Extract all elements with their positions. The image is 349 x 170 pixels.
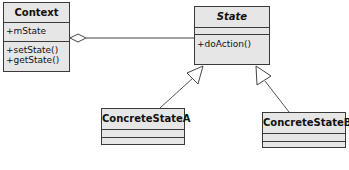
- class-title: ConcreteStateA: [102, 109, 184, 130]
- class-title: ConcreteStateB: [263, 113, 345, 134]
- attributes-section: [263, 134, 345, 142]
- class-concrete-state-b[interactable]: ConcreteStateB: [262, 112, 346, 148]
- method: +doAction(): [197, 39, 269, 49]
- class-title: State: [195, 7, 269, 28]
- attributes-section: [195, 28, 269, 35]
- generalization-b-connector: [256, 66, 289, 112]
- method: +getState(): [6, 55, 69, 65]
- attributes-section: [102, 130, 184, 138]
- methods-section: +doAction(): [195, 35, 269, 49]
- methods-section: [102, 138, 184, 145]
- attribute: +mState: [6, 26, 69, 36]
- class-state[interactable]: State +doAction(): [194, 6, 270, 65]
- method: +setState(): [6, 45, 69, 55]
- class-context[interactable]: Context +mState +setState() +getState(): [3, 2, 70, 72]
- class-title: Context: [4, 3, 69, 23]
- methods-section: +setState() +getState(): [4, 42, 69, 65]
- generalization-a-connector: [160, 66, 203, 108]
- aggregation-diamond-icon: [70, 34, 86, 42]
- methods-section: [263, 142, 345, 148]
- inheritance-triangle-icon: [256, 66, 271, 85]
- attributes-section: +mState: [4, 23, 69, 42]
- aggregation-connector: [70, 34, 194, 42]
- class-concrete-state-a[interactable]: ConcreteStateA: [101, 108, 185, 145]
